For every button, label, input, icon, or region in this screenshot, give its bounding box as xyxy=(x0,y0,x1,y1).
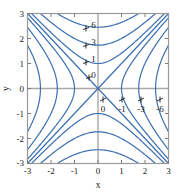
y-tick-label-1: 2 xyxy=(20,34,25,44)
x-axis-label: x xyxy=(96,180,101,190)
contour-label-1: 1 xyxy=(91,54,96,64)
x-tick-label-4: 1 xyxy=(119,166,124,176)
contour-label-0-bottom: 0 xyxy=(101,104,106,114)
x-tick-label-2: -1 xyxy=(71,166,79,176)
y-tick-label-5: -2 xyxy=(17,134,25,144)
contour-label-0-top: 0 xyxy=(91,70,96,80)
y-tick-label-3: 0 xyxy=(20,84,25,94)
x-tick-label-1: -2 xyxy=(47,166,55,176)
contour-label-3: 3 xyxy=(91,37,96,47)
y-tick-label-2: 1 xyxy=(20,59,25,69)
y-axis-label: y xyxy=(1,86,11,91)
contour-label-minus3: -3 xyxy=(137,104,145,114)
contour-label-minus1: -1 xyxy=(118,104,126,114)
y-tick-label-4: -1 xyxy=(17,109,25,119)
contour-label-minus6: -6 xyxy=(156,104,164,114)
x-tick-label-5: 2 xyxy=(143,166,148,176)
contour-label-6: 6 xyxy=(91,20,96,30)
contour-figure: -3 -2 -1 0 1 2 3 3 2 1 0 -1 -2 -3 x y xyxy=(0,0,181,194)
x-tick-label-0: -3 xyxy=(24,166,32,176)
x-tick-label-6: 3 xyxy=(166,166,171,176)
y-tick-label-6: -3 xyxy=(17,158,25,168)
contour-plot-svg: -3 -2 -1 0 1 2 3 3 2 1 0 -1 -2 -3 x y xyxy=(0,0,181,194)
x-tick-label-3: 0 xyxy=(96,166,101,176)
y-tick-label-0: 3 xyxy=(20,9,25,19)
